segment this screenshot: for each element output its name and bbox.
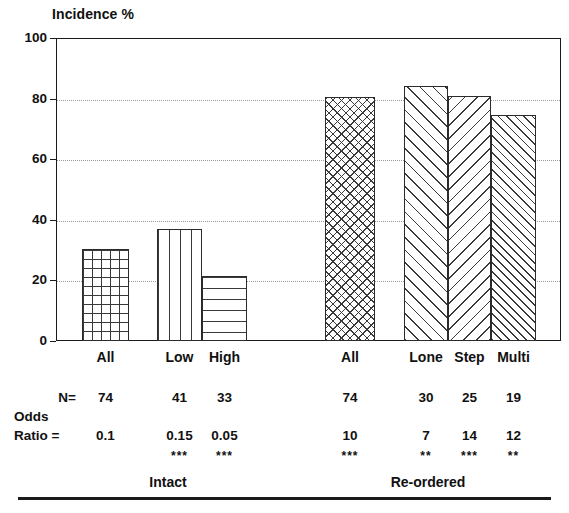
bottom-rule	[18, 497, 551, 500]
stat-n-2: 33	[217, 390, 232, 405]
y-axis-title: Incidence %	[52, 6, 134, 22]
y-tick-label: 20	[0, 274, 47, 288]
y-tick-label: 60	[0, 152, 47, 166]
stat-n-3: 74	[342, 390, 357, 405]
category-label-low-1: Low	[166, 349, 194, 365]
row-label-ratio: Ratio =	[0, 428, 80, 443]
stat-odds-ratio-3: 10	[342, 428, 357, 443]
stat-odds-ratio-1: 0.15	[166, 428, 192, 443]
stat-odds-ratio-2: 0.05	[211, 428, 237, 443]
category-label-step-5: Step	[454, 349, 484, 365]
stat-odds-ratio-4: 7	[422, 428, 430, 443]
stat-n-5: 25	[462, 390, 477, 405]
bar-intact-low	[157, 229, 202, 341]
stat-n-1: 41	[172, 390, 187, 405]
stat-significance-5: ***	[461, 449, 478, 463]
stat-significance-1: ***	[171, 449, 188, 463]
y-tick-mark	[50, 341, 56, 342]
group-label-intact: Intact	[149, 474, 186, 490]
category-label-all-3: All	[341, 349, 359, 365]
bar-reordered-multi	[491, 115, 536, 341]
y-tick-mark	[50, 38, 56, 39]
y-tick-mark	[50, 99, 56, 100]
stat-significance-3: ***	[341, 449, 358, 463]
y-tick-label: 0	[0, 334, 47, 348]
bar-intact-high	[202, 276, 247, 341]
stat-odds-ratio-6: 12	[506, 428, 521, 443]
bar-reordered-all	[325, 97, 375, 341]
y-tick-mark	[50, 220, 56, 221]
stat-significance-4: **	[420, 449, 431, 463]
stat-n-6: 19	[506, 390, 521, 405]
figure-root: Incidence % 020406080100 AllLowHighAllLo…	[0, 0, 569, 513]
stat-significance-2: ***	[216, 449, 233, 463]
stat-odds-ratio-5: 14	[462, 428, 477, 443]
category-label-high-2: High	[209, 349, 240, 365]
row-label-n: N=	[0, 390, 76, 405]
y-tick-label: 100	[0, 31, 47, 45]
y-tick-label: 80	[0, 92, 47, 106]
stat-n-0: 74	[98, 390, 113, 405]
group-label-reordered: Re-ordered	[391, 474, 466, 490]
stat-n-4: 30	[418, 390, 433, 405]
category-label-multi-6: Multi	[497, 349, 530, 365]
bar-intact-all	[82, 249, 129, 341]
bar-reordered-step	[448, 96, 491, 341]
category-label-all-0: All	[97, 349, 115, 365]
stat-odds-ratio-0: 0.1	[96, 428, 115, 443]
y-tick-mark	[50, 159, 56, 160]
bar-reordered-lone	[404, 86, 448, 341]
row-label-odds: Odds	[0, 409, 76, 424]
category-label-lone-4: Lone	[409, 349, 442, 365]
y-tick-label: 40	[0, 213, 47, 227]
y-tick-mark	[50, 280, 56, 281]
stat-significance-6: **	[508, 449, 519, 463]
